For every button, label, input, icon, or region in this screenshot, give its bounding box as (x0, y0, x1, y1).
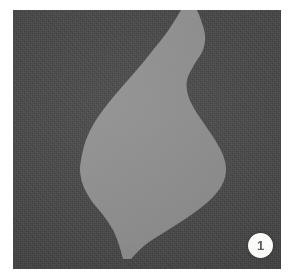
light-gray-region (80, 10, 226, 259)
image-panel (13, 10, 281, 269)
figure-number-label: 1 (257, 239, 264, 252)
figure-number-badge: 1 (248, 233, 273, 258)
figure-root: 1 (0, 0, 297, 280)
organic-shape-svg (13, 10, 281, 269)
